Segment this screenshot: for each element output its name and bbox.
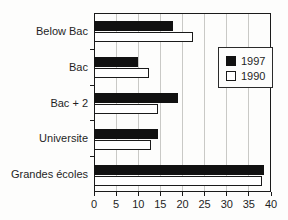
x-axis-tick bbox=[204, 192, 205, 196]
category-label-below-bac: Below Bac bbox=[0, 25, 88, 37]
bar-1997-bac-2 bbox=[94, 93, 178, 103]
x-tick-label-5: 5 bbox=[104, 198, 128, 210]
bar-1990-bac-2 bbox=[94, 104, 158, 114]
x-axis-tick bbox=[248, 192, 249, 196]
y-axis-tick bbox=[90, 156, 94, 157]
x-axis-tick bbox=[138, 192, 139, 196]
x-axis-tick bbox=[94, 192, 95, 196]
bar-1997-universite bbox=[94, 129, 158, 139]
bar-1990-below-bac bbox=[94, 32, 194, 42]
bar-1997-bac bbox=[94, 57, 138, 67]
bar-1997-grandes-coles bbox=[94, 165, 264, 175]
bar-1990-universite bbox=[94, 140, 152, 150]
x-tick-label-40: 40 bbox=[259, 198, 283, 210]
x-axis-tick bbox=[160, 192, 161, 196]
x-axis-tick bbox=[226, 192, 227, 196]
category-label-universite: Universite bbox=[0, 132, 88, 144]
x-tick-label-0: 0 bbox=[82, 198, 106, 210]
x-tick-label-10: 10 bbox=[126, 198, 150, 210]
x-tick-label-35: 35 bbox=[237, 198, 261, 210]
legend: 19971990 bbox=[218, 47, 273, 88]
y-axis-tick bbox=[90, 49, 94, 50]
y-axis-tick bbox=[90, 85, 94, 86]
category-label-bac-2: Bac + 2 bbox=[0, 97, 88, 109]
legend-entry-1990: 1990 bbox=[226, 68, 266, 83]
bar-1990-bac bbox=[94, 68, 149, 78]
legend-swatch-1997 bbox=[226, 56, 236, 66]
legend-swatch-1990 bbox=[226, 71, 236, 81]
category-label-grandes-coles: Grandes écoles bbox=[0, 168, 88, 180]
bar-chart-figure: Below BacBacBac + 2UniversiteGrandes éco… bbox=[0, 0, 288, 220]
x-axis-tick bbox=[271, 192, 272, 196]
legend-label-1990: 1990 bbox=[241, 70, 265, 82]
x-axis-tick bbox=[182, 192, 183, 196]
legend-label-1997: 1997 bbox=[241, 55, 265, 67]
x-tick-label-25: 25 bbox=[193, 198, 217, 210]
x-tick-label-15: 15 bbox=[148, 198, 172, 210]
x-tick-label-20: 20 bbox=[171, 198, 195, 210]
x-axis-tick bbox=[116, 192, 117, 196]
category-label-bac: Bac bbox=[0, 61, 88, 73]
y-axis-tick bbox=[90, 120, 94, 121]
bar-1990-grandes-coles bbox=[94, 176, 262, 186]
plot-area bbox=[94, 13, 271, 192]
x-tick-label-30: 30 bbox=[215, 198, 239, 210]
legend-entry-1997: 1997 bbox=[226, 53, 266, 68]
bar-1997-below-bac bbox=[94, 21, 174, 31]
